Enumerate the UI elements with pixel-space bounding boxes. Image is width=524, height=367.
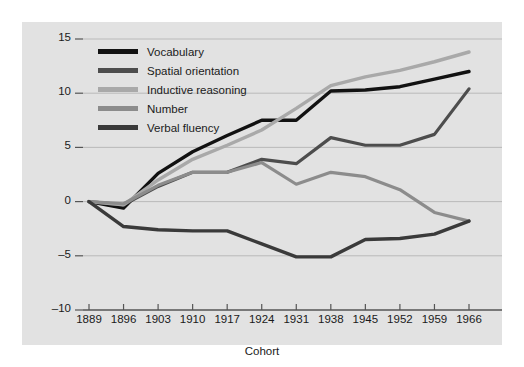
x-axis-label: Cohort <box>0 345 524 357</box>
x-tick-label: 1966 <box>447 313 491 325</box>
legend-label: Vocabulary <box>147 46 204 58</box>
y-tick-label: 10 <box>31 85 71 97</box>
legend-item[interactable]: Spatial orientation <box>98 61 247 80</box>
legend-item[interactable]: Number <box>98 99 247 118</box>
legend-item[interactable]: Inductive reasoning <box>98 80 247 99</box>
legend-label: Number <box>147 103 188 115</box>
legend-swatch-icon <box>98 68 138 73</box>
legend-label: Inductive reasoning <box>147 84 247 96</box>
y-tick-label: –10 <box>31 302 71 314</box>
legend-label: Verbal fluency <box>147 122 219 134</box>
y-tick-label: 15 <box>31 31 71 43</box>
y-tick-label: –5 <box>31 248 71 260</box>
y-tick-label: 0 <box>31 194 71 206</box>
series-line <box>89 163 469 222</box>
legend-item[interactable]: Verbal fluency <box>98 118 247 137</box>
legend-swatch-icon <box>98 49 138 54</box>
y-tick-label: 5 <box>31 139 71 151</box>
chart-legend: VocabularySpatial orientationInductive r… <box>98 42 247 137</box>
chart-container: Mean T Scores Cohort –10–5051015 1889189… <box>0 0 524 367</box>
legend-swatch-icon <box>98 87 138 92</box>
series-line <box>89 202 469 257</box>
legend-item[interactable]: Vocabulary <box>98 42 247 61</box>
plot-svg <box>0 0 524 367</box>
legend-swatch-icon <box>98 125 138 130</box>
legend-label: Spatial orientation <box>147 65 239 77</box>
legend-swatch-icon <box>98 106 138 111</box>
